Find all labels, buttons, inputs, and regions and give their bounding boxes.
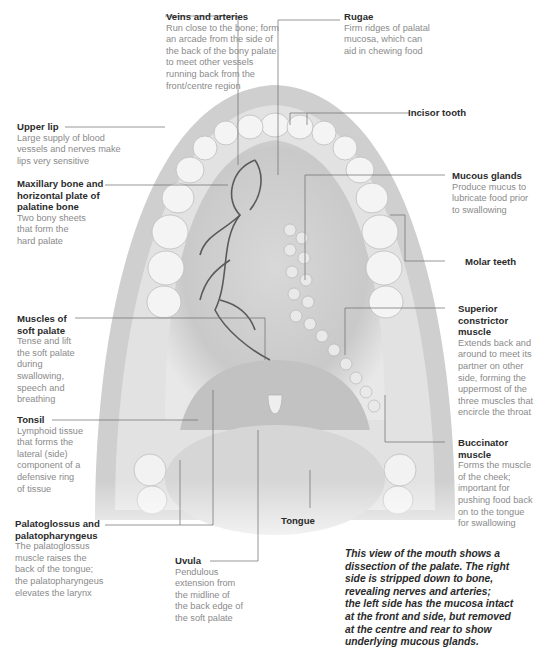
label-desc: Run close to the bone; form an arcade fr… (166, 23, 296, 93)
label-title: Tongue (281, 515, 315, 527)
label-desc: Forms the muscle of the cheek; important… (458, 460, 540, 530)
label-veins-and-arteries: Veins and arteries Run close to the bone… (166, 11, 296, 92)
label-desc: Two bony sheets that form the hard palat… (17, 213, 117, 248)
label-uvula: Uvula Pendulous extension from the midli… (175, 555, 255, 625)
label-desc: Produce mucus to lubricate food prior to… (452, 182, 540, 217)
label-title: Rugae (344, 11, 464, 23)
label-tongue: Tongue (281, 515, 315, 527)
label-title: Tonsil (17, 414, 97, 426)
label-title: Incisor tooth (408, 107, 466, 119)
label-mucous-glands: Mucous glands Produce mucus to lubricate… (452, 170, 540, 216)
label-title: Buccinator muscle (458, 437, 540, 460)
label-molar-teeth: Molar teeth (465, 256, 516, 268)
label-title: Veins and arteries (166, 11, 296, 23)
label-tonsil: Tonsil Lymphoid tissue that forms the la… (17, 414, 97, 495)
label-title: Molar teeth (465, 256, 516, 268)
label-title: Palatoglossus and palatopharyngeus (15, 518, 115, 541)
label-title: Mucous glands (452, 170, 540, 182)
label-desc: Extends back and around to meet its part… (458, 338, 540, 419)
label-desc: Pendulous extension from the midline of … (175, 567, 255, 625)
label-palatoglossus: Palatoglossus and palatopharyngeus The p… (15, 518, 115, 599)
label-desc: Large supply of blood vessels and nerves… (17, 133, 137, 168)
label-maxillary-bone: Maxillary bone and horizontal plate of p… (17, 178, 117, 248)
label-title: Uvula (175, 555, 255, 567)
label-desc: Lymphoid tissue that forms the lateral (… (17, 426, 97, 496)
label-title: Muscles of soft palate (17, 313, 77, 336)
label-title: Maxillary bone and horizontal plate of p… (17, 178, 117, 213)
label-title: Upper lip (17, 121, 137, 133)
label-desc: Tense and lift the soft palate during sw… (17, 336, 77, 406)
label-desc: The palatoglossus muscle raises the back… (15, 541, 115, 599)
label-superior-constrictor: Superior constrictor muscle Extends back… (458, 303, 540, 419)
label-buccinator: Buccinator muscle Forms the muscle of th… (458, 437, 540, 530)
figure-caption: This view of the mouth shows a dissectio… (345, 548, 535, 649)
label-muscles-soft-palate: Muscles of soft palate Tense and lift th… (17, 313, 77, 406)
label-title: Superior constrictor muscle (458, 303, 540, 338)
label-desc: Firm ridges of palatal mucosa, which can… (344, 23, 464, 58)
label-incisor-tooth: Incisor tooth (408, 107, 466, 119)
label-rugae: Rugae Firm ridges of palatal mucosa, whi… (344, 11, 464, 57)
label-upper-lip: Upper lip Large supply of blood vessels … (17, 121, 137, 167)
